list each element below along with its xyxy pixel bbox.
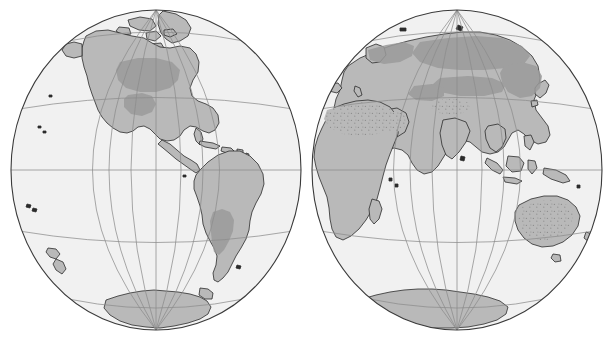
indian-ocean-island-a xyxy=(389,178,392,181)
western-hemisphere-globe xyxy=(11,10,301,330)
falkland-islands xyxy=(236,265,241,269)
world-map-svg xyxy=(0,0,613,337)
pacific-island-east xyxy=(577,185,580,188)
galapagos-islands xyxy=(183,175,186,177)
world-map-figure: World map in two hemispheres Western Hem… xyxy=(0,0,613,337)
south-pacific-island-a xyxy=(26,204,31,208)
svalbard-landmass xyxy=(400,28,406,31)
indian-ocean-island-b xyxy=(395,184,398,187)
pacific-island-a xyxy=(38,126,41,128)
south-pacific-island-b xyxy=(32,208,37,212)
sri-lanka-landmass xyxy=(460,156,465,161)
pacific-island-b xyxy=(43,131,46,133)
eastern-hemisphere-globe xyxy=(312,10,602,330)
hawaii-islands xyxy=(49,95,52,97)
